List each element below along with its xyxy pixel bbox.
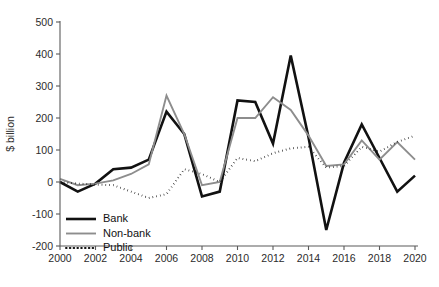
x-tick-label: 2000	[48, 252, 72, 264]
x-tick-label: 2020	[403, 252, 427, 264]
series-line-non-bank	[60, 96, 415, 186]
y-tick-label: 200	[35, 112, 53, 124]
y-axis-title: $ billion	[4, 116, 16, 152]
chart-legend: BankNon-bankPublic	[66, 212, 151, 253]
y-tick-label: 100	[35, 144, 53, 156]
x-tick-label: 2014	[297, 252, 321, 264]
y-tick-labels: -200-1000100200300400500	[32, 16, 53, 252]
x-tick-label: 2010	[226, 252, 250, 264]
y-tick-label: 400	[35, 48, 53, 60]
legend-label-non-bank: Non-bank	[103, 227, 151, 239]
series-group	[60, 56, 415, 230]
legend-label-bank: Bank	[103, 212, 129, 224]
chart-container: -200-1000100200300400500 200020022004200…	[0, 0, 439, 287]
series-line-public	[60, 136, 415, 198]
line-chart: -200-1000100200300400500 200020022004200…	[0, 0, 439, 287]
x-tick-labels: 2000200220042006200820102012201420162018…	[48, 252, 427, 264]
x-tick-label: 2002	[84, 252, 108, 264]
y-tick-label: 300	[35, 80, 53, 92]
x-tick-label: 2006	[155, 252, 179, 264]
legend-label-public: Public	[103, 241, 133, 253]
x-tick-label: 2004	[119, 252, 143, 264]
y-tick-label: 0	[47, 176, 53, 188]
x-tick-label: 2012	[261, 252, 285, 264]
series-line-bank	[60, 56, 415, 230]
plot-area	[60, 56, 415, 230]
x-tick-label: 2016	[332, 252, 356, 264]
y-tick-label: 500	[35, 16, 53, 28]
y-axis-title-text: $ billion	[4, 116, 16, 152]
x-tick-label: 2018	[368, 252, 392, 264]
y-tick-label: -200	[32, 240, 53, 252]
x-tick-label: 2008	[190, 252, 214, 264]
y-tick-label: -100	[32, 208, 53, 220]
